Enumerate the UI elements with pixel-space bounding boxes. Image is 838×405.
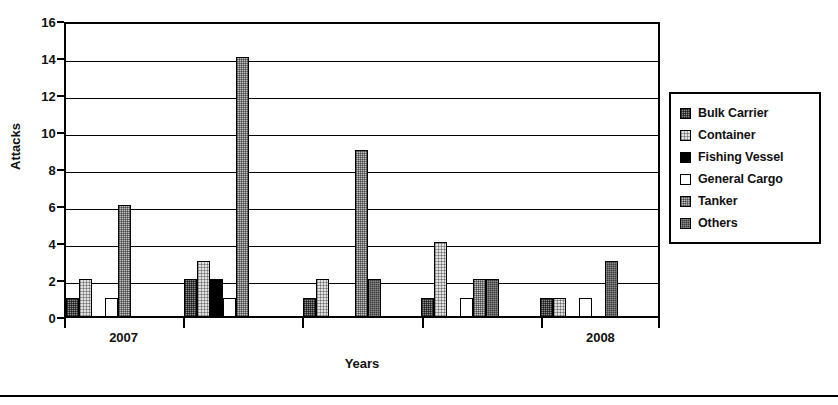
legend-label: Others (698, 216, 738, 230)
bar-cargo (579, 298, 592, 317)
y-tick-label: 14 (41, 52, 56, 67)
legend-item[interactable]: Tanker (680, 190, 811, 212)
y-tick-mark (57, 95, 64, 97)
chart-figure: Attacks 0246810121416 20072008 Years Bul… (0, 0, 838, 405)
bar-tanker (236, 57, 249, 316)
y-tick-mark (57, 317, 64, 319)
bar-others (368, 279, 381, 316)
bar-bulk (303, 298, 316, 317)
y-axis-ticks: 0246810121416 (0, 22, 64, 318)
bar-container (316, 279, 329, 316)
bar-bulk (184, 279, 197, 316)
x-tick-label: 2008 (586, 330, 615, 345)
legend: Bulk CarrierContainerFishing VesselGener… (669, 92, 821, 244)
y-tick-mark (57, 21, 64, 23)
legend-label: General Cargo (698, 172, 783, 186)
y-tick-mark (57, 280, 64, 282)
y-tick-label: 12 (41, 89, 56, 104)
y-tick-label: 10 (41, 126, 56, 141)
bar-group (540, 24, 658, 316)
bar-group (303, 24, 421, 316)
x-axis-title: Years (64, 356, 660, 371)
y-tick-mark (57, 243, 64, 245)
x-tick-mark (183, 318, 185, 328)
bar-bulk (66, 298, 79, 317)
y-tick-label: 0 (49, 311, 56, 326)
bar-others (486, 279, 499, 316)
legend-label: Container (698, 128, 755, 142)
y-tick-label: 16 (41, 15, 56, 30)
legend-swatch-icon (680, 196, 691, 207)
y-tick-label: 4 (49, 237, 56, 252)
y-tick-label: 8 (49, 163, 56, 178)
bar-cargo (460, 298, 473, 317)
y-tick-label: 2 (49, 274, 56, 289)
bar-tanker (355, 150, 368, 317)
bar-cargo (223, 298, 236, 317)
bar-tanker (118, 205, 131, 316)
bar-bulk (540, 298, 553, 317)
y-tick-label: 6 (49, 200, 56, 215)
bar-container (434, 242, 447, 316)
x-tick-mark (541, 318, 543, 328)
legend-swatch-icon (680, 130, 691, 141)
legend-item[interactable]: General Cargo (680, 168, 811, 190)
legend-item[interactable]: Container (680, 124, 811, 146)
bar-group (184, 24, 302, 316)
legend-swatch-icon (680, 152, 691, 163)
x-tick-label: 2007 (109, 330, 138, 345)
legend-label: Fishing Vessel (698, 150, 783, 164)
y-tick-mark (57, 132, 64, 134)
plot-area (64, 22, 660, 318)
y-tick-mark (57, 58, 64, 60)
y-tick-mark (57, 169, 64, 171)
bar-others (605, 261, 618, 317)
bars-layer (66, 24, 658, 316)
y-tick-mark (57, 206, 64, 208)
bar-container (197, 261, 210, 317)
bar-group (421, 24, 539, 316)
legend-swatch-icon (680, 108, 691, 119)
bar-container (79, 279, 92, 316)
bar-fishing (210, 279, 223, 316)
bar-group (66, 24, 184, 316)
legend-label: Bulk Carrier (698, 106, 768, 120)
legend-swatch-icon (680, 174, 691, 185)
bar-bulk (421, 298, 434, 317)
footer-rule (0, 395, 838, 397)
x-tick-mark (64, 318, 66, 328)
legend-item[interactable]: Others (680, 212, 811, 234)
x-tick-mark (302, 318, 304, 328)
bar-cargo (105, 298, 118, 317)
legend-swatch-icon (680, 218, 691, 229)
x-axis-labels: 20072008 (64, 330, 660, 350)
x-tick-mark (422, 318, 424, 328)
bar-tanker (473, 279, 486, 316)
legend-item[interactable]: Bulk Carrier (680, 102, 811, 124)
legend-label: Tanker (698, 194, 737, 208)
x-tick-mark (658, 318, 660, 328)
bar-container (553, 298, 566, 317)
legend-item[interactable]: Fishing Vessel (680, 146, 811, 168)
